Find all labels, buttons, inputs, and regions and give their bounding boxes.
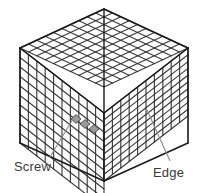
cube-diagram-canvas: Screw Edge xyxy=(0,0,204,193)
callout-label-edge: Edge xyxy=(153,165,184,180)
lattice-cube-figure: Screw Edge xyxy=(0,0,204,193)
callout-label-screw: Screw xyxy=(14,159,52,174)
